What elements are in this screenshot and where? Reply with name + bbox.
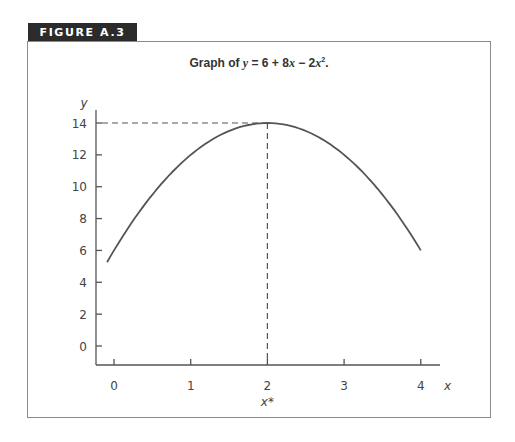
parabola-curve [107, 123, 421, 262]
x-star-label: x* [260, 395, 274, 409]
y-tick-label: 0 [79, 340, 87, 354]
y-tick-label: 6 [79, 244, 87, 258]
chart-plot: 0246810121401234yxx* [0, 0, 515, 442]
y-tick-label: 2 [79, 308, 87, 322]
x-tick-label: 0 [110, 379, 118, 393]
x-tick-label: 3 [340, 379, 348, 393]
y-axis-label: y [79, 96, 88, 110]
x-tick-label: 1 [187, 379, 195, 393]
y-tick-label: 10 [72, 180, 87, 194]
x-axis-label: x [443, 379, 452, 393]
y-tick-label: 4 [79, 276, 87, 290]
y-tick-label: 8 [79, 212, 87, 226]
y-tick-label: 12 [72, 148, 87, 162]
x-tick-label: 4 [417, 379, 425, 393]
y-tick-label: 14 [72, 117, 87, 131]
axis-labels: 0246810121401234yxx* [72, 96, 452, 409]
x-tick-label: 2 [264, 379, 272, 393]
